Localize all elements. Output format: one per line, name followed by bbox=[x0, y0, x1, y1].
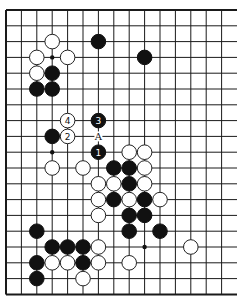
white-stone bbox=[30, 50, 45, 65]
white-stone bbox=[107, 177, 122, 192]
white-stone bbox=[91, 240, 106, 255]
black-stone bbox=[45, 66, 60, 81]
black-stone-disc bbox=[45, 129, 60, 144]
black-stone: 1 bbox=[91, 145, 106, 160]
black-stone bbox=[153, 224, 168, 239]
white-stone: 2 bbox=[60, 129, 75, 144]
white-stone-disc bbox=[91, 177, 106, 192]
white-stone bbox=[122, 255, 137, 270]
white-stone bbox=[30, 66, 45, 81]
star-point bbox=[50, 55, 54, 59]
black-stone bbox=[107, 192, 122, 207]
white-stone-disc bbox=[76, 161, 91, 176]
black-stone bbox=[137, 50, 152, 65]
white-stone bbox=[76, 271, 91, 286]
white-stone-disc bbox=[137, 177, 152, 192]
black-stone bbox=[122, 208, 137, 223]
white-stone bbox=[91, 208, 106, 223]
black-stone-disc bbox=[76, 255, 91, 270]
white-stone bbox=[45, 255, 60, 270]
white-stone bbox=[91, 255, 106, 270]
black-stone bbox=[30, 271, 45, 286]
black-stone-disc bbox=[30, 271, 45, 286]
black-stone bbox=[122, 177, 137, 192]
move-number-label: 2 bbox=[65, 132, 71, 142]
star-point bbox=[50, 150, 54, 154]
black-stone bbox=[60, 240, 75, 255]
black-stone bbox=[137, 208, 152, 223]
white-stone bbox=[137, 161, 152, 176]
white-stone-disc bbox=[60, 50, 75, 65]
white-stone: 4 bbox=[60, 113, 75, 128]
white-stone bbox=[60, 255, 75, 270]
markers-layer: A bbox=[94, 131, 103, 142]
black-stone-disc bbox=[153, 224, 168, 239]
white-stone bbox=[76, 161, 91, 176]
white-stone-disc bbox=[137, 145, 152, 160]
black-stone bbox=[45, 129, 60, 144]
move-number-label: 4 bbox=[65, 116, 71, 126]
white-stone bbox=[122, 192, 137, 207]
white-stone bbox=[137, 145, 152, 160]
black-stone bbox=[107, 161, 122, 176]
black-stone bbox=[91, 34, 106, 49]
black-stone-disc bbox=[45, 240, 60, 255]
black-stone bbox=[122, 224, 137, 239]
white-stone-disc bbox=[76, 271, 91, 286]
white-stone bbox=[60, 50, 75, 65]
black-stone bbox=[137, 192, 152, 207]
white-stone-disc bbox=[91, 208, 106, 223]
black-stone bbox=[76, 240, 91, 255]
black-stone bbox=[30, 82, 45, 97]
black-stone bbox=[45, 240, 60, 255]
black-stone-disc bbox=[137, 208, 152, 223]
black-stone-disc bbox=[107, 192, 122, 207]
white-stone-disc bbox=[122, 145, 137, 160]
black-stone-disc bbox=[30, 224, 45, 239]
white-stone-disc bbox=[60, 255, 75, 270]
white-stone-disc bbox=[91, 240, 106, 255]
black-stone-disc bbox=[30, 82, 45, 97]
white-stone-disc bbox=[45, 34, 60, 49]
go-board: 4231 A bbox=[0, 0, 244, 302]
white-stone bbox=[45, 161, 60, 176]
move-number-label: 1 bbox=[96, 148, 102, 158]
black-stone-disc bbox=[60, 240, 75, 255]
white-stone-disc bbox=[122, 192, 137, 207]
black-stone bbox=[30, 255, 45, 270]
white-stone-disc bbox=[91, 255, 106, 270]
white-stone-disc bbox=[45, 161, 60, 176]
white-stone-disc bbox=[45, 255, 60, 270]
move-number-label: 3 bbox=[96, 116, 102, 126]
black-stone-disc bbox=[91, 34, 106, 49]
black-stone-disc bbox=[45, 66, 60, 81]
black-stone-disc bbox=[76, 240, 91, 255]
black-stone: 3 bbox=[91, 113, 106, 128]
black-stone-disc bbox=[30, 255, 45, 270]
black-stone bbox=[45, 82, 60, 97]
white-stone-disc bbox=[122, 255, 137, 270]
black-stone-disc bbox=[122, 208, 137, 223]
white-stone-disc bbox=[30, 66, 45, 81]
white-stone-disc bbox=[91, 192, 106, 207]
black-stone-disc bbox=[122, 161, 137, 176]
black-stone-disc bbox=[45, 82, 60, 97]
white-stone bbox=[153, 192, 168, 207]
white-stone-disc bbox=[184, 240, 199, 255]
black-stone-disc bbox=[137, 50, 152, 65]
black-stone bbox=[30, 224, 45, 239]
star-point bbox=[142, 245, 146, 249]
white-stone-disc bbox=[137, 161, 152, 176]
black-stone-disc bbox=[122, 224, 137, 239]
white-stone-disc bbox=[153, 192, 168, 207]
white-stone bbox=[45, 34, 60, 49]
black-stone-disc bbox=[107, 161, 122, 176]
black-stone-disc bbox=[137, 192, 152, 207]
black-stone-disc bbox=[122, 177, 137, 192]
black-stone bbox=[76, 255, 91, 270]
white-stone-disc bbox=[30, 50, 45, 65]
black-stone bbox=[122, 161, 137, 176]
white-stone bbox=[137, 177, 152, 192]
white-stone-disc bbox=[107, 177, 122, 192]
white-stone bbox=[184, 240, 199, 255]
